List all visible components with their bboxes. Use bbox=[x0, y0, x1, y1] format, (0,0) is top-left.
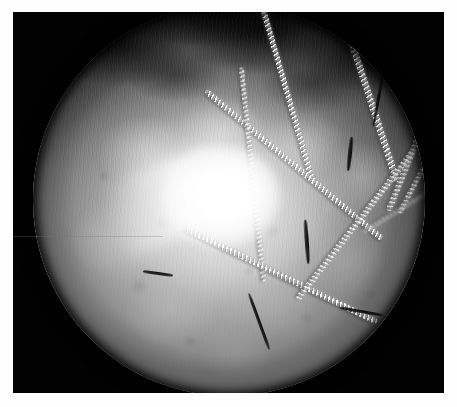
medical-image-canvas bbox=[13, 12, 444, 393]
endoscope-field-of-view bbox=[33, 12, 425, 393]
screenshot-root bbox=[0, 0, 457, 407]
scanline-artifact bbox=[13, 236, 163, 237]
scope-rim bbox=[33, 12, 425, 393]
